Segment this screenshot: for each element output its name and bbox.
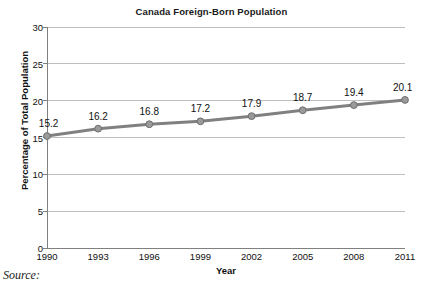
data-point-label: 17.2 xyxy=(191,103,210,114)
data-point-label: 15.2 xyxy=(39,118,58,129)
data-point-labels: 15.216.216.817.217.918.719.420.1 xyxy=(47,27,405,248)
data-point-label: 16.8 xyxy=(140,106,159,117)
data-point-label: 16.2 xyxy=(88,111,107,122)
x-tick-label: 1996 xyxy=(126,251,172,262)
data-point-label: 20.1 xyxy=(393,82,412,93)
x-tick-label: 2011 xyxy=(382,251,423,262)
x-tick-label: 1993 xyxy=(75,251,121,262)
x-tick-label: 1999 xyxy=(177,251,223,262)
y-axis-title: Percentage of Total Population xyxy=(19,21,30,221)
data-point-label: 19.4 xyxy=(344,87,363,98)
x-axis-tick-labels: 19901993199619992002200520082011 xyxy=(47,251,405,265)
data-point-label: 17.9 xyxy=(242,98,261,109)
data-point-label: 18.7 xyxy=(293,92,312,103)
source-caption: Source: xyxy=(3,268,40,283)
x-tick-label: 2002 xyxy=(229,251,275,262)
x-tick-label: 2008 xyxy=(331,251,377,262)
x-tick-label: 2005 xyxy=(280,251,326,262)
x-tick-label: 1990 xyxy=(24,251,70,262)
x-axis-title: Year xyxy=(47,265,405,276)
chart-figure: Canada Foreign-Born Population 051015202… xyxy=(0,0,423,287)
page-title: Canada Foreign-Born Population xyxy=(0,6,423,17)
